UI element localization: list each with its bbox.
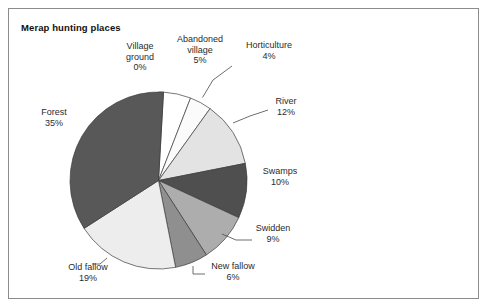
- pie-slices: [70, 92, 247, 269]
- slice-label-abandoned-village-name: Abandoned: [166, 34, 234, 45]
- slice-label-river-value: 12%: [262, 107, 310, 118]
- leader-line-horticulture: [203, 66, 233, 98]
- slice-label-old-fallow: Old fallow 19%: [55, 262, 121, 283]
- slice-label-old-fallow-value: 19%: [55, 273, 121, 284]
- slice-label-village-ground-value: 0%: [112, 62, 168, 73]
- slice-label-village-ground-name2: ground: [112, 52, 168, 63]
- slice-label-village-ground: Village ground 0%: [112, 41, 168, 73]
- slice-label-river-name: River: [262, 96, 310, 107]
- slice-label-forest: Forest 35%: [28, 107, 80, 128]
- slice-label-abandoned-village: Abandoned village 5%: [166, 34, 234, 66]
- slice-label-horticulture-name: Horticulture: [232, 40, 306, 51]
- slice-label-abandoned-village-value: 5%: [166, 55, 234, 66]
- figure-container: Merap hunting places Village ground 0% A…: [0, 0, 489, 308]
- slice-label-swamps-name: Swamps: [250, 166, 310, 177]
- slice-label-river: River 12%: [262, 96, 310, 117]
- slice-label-old-fallow-name: Old fallow: [55, 262, 121, 273]
- slice-label-swidden-name: Swidden: [243, 223, 303, 234]
- slice-label-village-ground-name: Village: [112, 41, 168, 52]
- slice-label-new-fallow-name: New fallow: [200, 261, 266, 272]
- slice-label-horticulture: Horticulture 4%: [232, 40, 306, 61]
- slice-label-forest-name: Forest: [28, 107, 80, 118]
- slice-label-forest-value: 35%: [28, 118, 80, 129]
- slice-label-swidden-value: 9%: [243, 234, 303, 245]
- slice-label-abandoned-village-name2: village: [166, 45, 234, 56]
- slice-label-swamps: Swamps 10%: [250, 166, 310, 187]
- slice-label-swamps-value: 10%: [250, 177, 310, 188]
- slice-label-horticulture-value: 4%: [232, 51, 306, 62]
- slice-label-swidden: Swidden 9%: [243, 223, 303, 244]
- slice-label-new-fallow-value: 6%: [200, 272, 266, 283]
- slice-label-new-fallow: New fallow 6%: [200, 261, 266, 282]
